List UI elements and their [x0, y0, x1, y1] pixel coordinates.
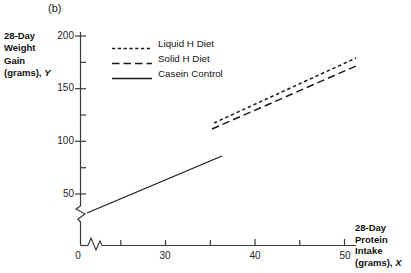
series-line-solid-h-diet: [212, 66, 356, 129]
plot-area: [0, 0, 411, 273]
y-axis-break-icon: [76, 206, 85, 222]
x-axis-break-icon: [88, 238, 102, 250]
series-line-casein-control: [87, 156, 222, 213]
chart-figure: (b) 28-Day Weight Gain (grams), Y 28-Day…: [0, 0, 411, 273]
series-line-liquid-h-diet: [214, 58, 356, 123]
